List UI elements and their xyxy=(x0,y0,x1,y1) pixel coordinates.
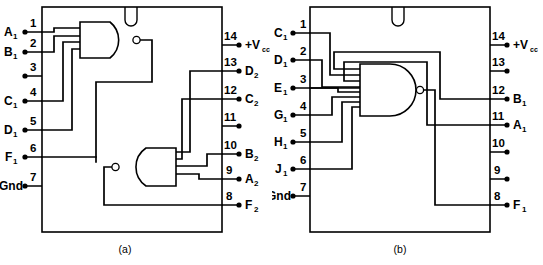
pin-number-a-left-3: 3 xyxy=(30,61,36,73)
svg-text:C: C xyxy=(245,92,254,106)
pin-label-b-right-14: +V cc xyxy=(513,38,538,53)
svg-text:cc: cc xyxy=(530,46,538,53)
pin-lead-a-left-6[interactable] xyxy=(22,154,42,159)
pin-lead-a-left-1[interactable] xyxy=(22,29,42,34)
pin-number-a-left-4: 4 xyxy=(30,86,37,98)
package-notch-icon-a xyxy=(125,7,137,26)
pin-lead-b-left-5[interactable] xyxy=(290,139,310,144)
nand-bubble-icon-a-lower xyxy=(112,163,119,170)
pin-number-a-left-2: 2 xyxy=(30,37,36,49)
pin-number-a-right-13: 13 xyxy=(224,56,237,68)
svg-text:2: 2 xyxy=(254,71,259,80)
svg-text:F: F xyxy=(513,198,520,212)
wire-a-pin1-to-gate1-in1 xyxy=(42,28,80,32)
wire-a-pin13-to-gate2-in1 xyxy=(176,71,222,152)
wire-b-pin2-to-gate-in3 xyxy=(310,60,360,87)
pin-number-b-left-2: 2 xyxy=(300,45,306,57)
svg-text:1: 1 xyxy=(283,142,288,151)
pin-lead-a-left-3[interactable] xyxy=(22,73,42,78)
wire-a-pin10-to-gate2-in3 xyxy=(176,154,222,166)
panel-caption-a: (a) xyxy=(119,243,132,255)
svg-text:C: C xyxy=(274,26,283,40)
svg-text:E: E xyxy=(274,81,282,95)
pin-lead-b-left-3[interactable] xyxy=(290,85,310,90)
ic-diagram-panel-b: 1 2 3 4 5 6 7 C 1 D 1 E 1 G 1 H 1 J 1 xyxy=(272,0,543,265)
pin-label-b-left-5: H 1 xyxy=(274,135,288,151)
pin-lead-b-right-13[interactable] xyxy=(490,68,510,73)
svg-text:B: B xyxy=(513,92,522,106)
pin-lead-b-right-8[interactable] xyxy=(490,202,510,207)
svg-text:F: F xyxy=(5,150,12,164)
pin-number-a-left-1: 1 xyxy=(30,17,37,29)
pin-label-a-left-6: F 1 xyxy=(5,150,18,166)
pin-lead-a-right-11[interactable] xyxy=(222,123,242,128)
pin-lead-a-right-9[interactable] xyxy=(222,176,242,181)
pin-number-b-right-11: 11 xyxy=(492,110,505,122)
svg-text:A: A xyxy=(4,25,13,39)
eight-input-nand-gate-b xyxy=(360,64,424,116)
pin-number-b-left-6: 6 xyxy=(300,154,306,166)
pin-label-a-right-13: D 2 xyxy=(245,64,259,80)
pin-lead-a-left-7[interactable] xyxy=(22,183,42,188)
pin-lead-b-right-10[interactable] xyxy=(490,149,510,154)
svg-text:G: G xyxy=(274,108,283,122)
svg-text:B: B xyxy=(245,147,254,161)
pin-lead-a-right-14[interactable] xyxy=(222,42,242,47)
pin-lead-a-right-13[interactable] xyxy=(222,68,242,73)
svg-text:1: 1 xyxy=(522,99,527,108)
svg-text:A: A xyxy=(513,118,522,132)
svg-text:Gnd: Gnd xyxy=(272,189,291,203)
pin-lead-b-right-11[interactable] xyxy=(490,122,510,127)
pin-lead-a-left-5[interactable] xyxy=(22,127,42,132)
pin-number-a-right-12: 12 xyxy=(224,84,237,96)
svg-text:F: F xyxy=(245,198,252,212)
svg-text:J: J xyxy=(275,162,282,176)
pin-number-b-left-7: 7 xyxy=(300,181,306,193)
ic-pinout-figure: 1 2 3 4 5 6 7 A 1 B 1 C 1 D 1 F 1 Gnd xyxy=(0,0,543,265)
svg-text:D: D xyxy=(274,53,283,67)
pin-lead-a-left-4[interactable] xyxy=(22,98,42,103)
pin-number-b-right-13: 13 xyxy=(492,56,505,68)
svg-text:2: 2 xyxy=(254,205,259,214)
pin-lead-b-left-1[interactable] xyxy=(290,30,310,35)
svg-text:D: D xyxy=(245,64,254,78)
pin-label-a-right-12: C 2 xyxy=(245,92,259,108)
svg-text:1: 1 xyxy=(522,125,527,134)
svg-text:2: 2 xyxy=(254,99,259,108)
pin-label-a-right-14: +V cc xyxy=(245,38,270,53)
svg-text:Gnd: Gnd xyxy=(0,179,23,193)
pin-number-a-right-10: 10 xyxy=(224,139,237,151)
pin-number-a-right-8: 8 xyxy=(226,190,233,202)
pin-lead-a-right-8[interactable] xyxy=(222,202,242,207)
pin-lead-b-left-2[interactable] xyxy=(290,57,310,62)
pin-lead-b-left-6[interactable] xyxy=(290,166,310,171)
pin-lead-a-left-2[interactable] xyxy=(22,49,42,54)
svg-text:1: 1 xyxy=(283,169,288,178)
ic-package-outline-b xyxy=(310,7,490,232)
pin-lead-b-left-7[interactable] xyxy=(290,193,310,198)
lower-nand-gate-a xyxy=(112,148,176,186)
pin-lead-b-right-9[interactable] xyxy=(490,176,510,181)
pin-lead-b-right-12[interactable] xyxy=(490,96,510,101)
svg-text:1: 1 xyxy=(13,157,18,166)
pin-lead-b-right-14[interactable] xyxy=(490,42,510,47)
pin-lead-a-right-10[interactable] xyxy=(222,151,242,156)
nand-bubble-icon-a-upper xyxy=(133,36,140,43)
pin-label-b-right-8: F 1 xyxy=(513,198,527,214)
pin-label-b-left-2: D 1 xyxy=(274,53,288,69)
pin-number-a-left-7: 7 xyxy=(30,171,36,183)
svg-text:B: B xyxy=(4,45,13,59)
svg-text:H: H xyxy=(274,135,283,149)
ic-diagram-panel-a: 1 2 3 4 5 6 7 A 1 B 1 C 1 D 1 F 1 Gnd xyxy=(0,0,272,265)
pin-label-b-left-7: Gnd xyxy=(272,189,291,203)
pin-lead-b-left-4[interactable] xyxy=(290,112,310,117)
nand-bubble-icon-b xyxy=(416,86,423,93)
pin-lead-a-right-12[interactable] xyxy=(222,96,242,101)
pin-label-b-left-4: G 1 xyxy=(274,108,288,124)
pin-number-a-left-5: 5 xyxy=(30,115,37,127)
panel-caption-b: (b) xyxy=(394,243,407,255)
svg-text:1: 1 xyxy=(283,88,288,97)
left-pin-group-a xyxy=(22,29,42,188)
svg-text:cc: cc xyxy=(262,46,270,53)
svg-text:1: 1 xyxy=(13,101,18,110)
